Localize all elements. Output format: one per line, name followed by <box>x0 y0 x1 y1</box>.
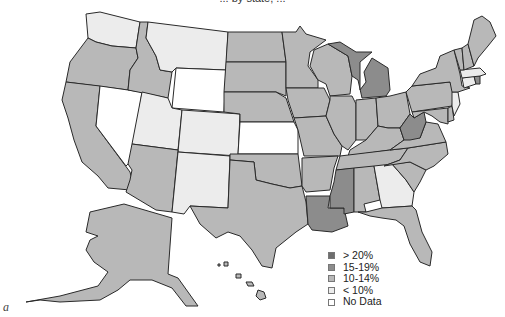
choropleth-map: ... by state, ... <box>0 0 505 317</box>
state-mississippi <box>330 168 354 214</box>
state-arizona <box>126 144 178 212</box>
legend-swatch-gt20 <box>328 252 335 259</box>
legend-item-gt20: > 20% <box>328 250 382 262</box>
legend: > 20% 15-19% 10-14% < 10% No Data <box>328 250 382 308</box>
legend-label-no-data: No Data <box>343 296 382 308</box>
legend-swatch-lt10 <box>328 287 335 294</box>
state-maine <box>468 16 496 66</box>
state-pennsylvania <box>406 82 454 112</box>
legend-label-gt20: > 20% <box>343 250 373 262</box>
legend-item-no-data: No Data <box>328 296 382 308</box>
panel-label: a <box>3 300 9 315</box>
legend-swatch-10-14 <box>328 275 335 282</box>
legend-swatch-15-19 <box>328 264 335 271</box>
hawaii-islands <box>218 262 266 300</box>
state-kansas <box>238 122 298 154</box>
state-north-dakota <box>226 32 286 62</box>
state-new-jersey <box>452 92 460 116</box>
us-states-map <box>0 0 505 317</box>
state-iowa <box>286 88 330 118</box>
state-montana <box>146 22 228 72</box>
state-south-dakota <box>224 62 286 96</box>
state-colorado <box>178 110 240 156</box>
state-wyoming <box>172 68 226 112</box>
legend-swatch-no-data <box>328 299 335 306</box>
state-new-mexico <box>172 152 230 214</box>
state-alaska <box>26 204 198 306</box>
